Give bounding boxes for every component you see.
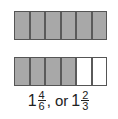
whole-number: 1 [71, 92, 80, 110]
bar-cell-shaded [62, 12, 78, 39]
bar-cell-shaded [31, 12, 47, 39]
fraction: 4 6 [38, 90, 46, 111]
denominator: 6 [39, 101, 45, 111]
bar-cell-shaded [46, 58, 62, 85]
fraction-bar-whole [14, 11, 107, 40]
bar-cell-shaded [93, 12, 107, 39]
bar-cell-shaded [46, 12, 62, 39]
bar-cell-shaded [31, 58, 47, 85]
bar-cell-shaded [62, 58, 78, 85]
bar-cell-shaded [15, 12, 31, 39]
bar-cell-empty [93, 58, 107, 85]
denominator: 3 [82, 101, 88, 111]
fraction-bar-partial [14, 57, 107, 86]
whole-number: 1 [28, 92, 37, 110]
fraction: 2 3 [81, 90, 89, 111]
mixed-number-caption: 1 4 6 , or 1 2 3 [0, 90, 118, 111]
bar-cell-shaded [15, 58, 31, 85]
bar-cell-empty [77, 58, 93, 85]
separator-text: , or [47, 92, 69, 109]
bar-cell-shaded [77, 12, 93, 39]
